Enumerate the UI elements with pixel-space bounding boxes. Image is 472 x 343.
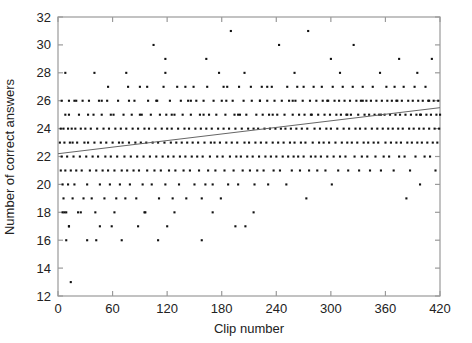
data-point (115, 197, 117, 199)
data-point (182, 114, 184, 116)
data-point (76, 142, 78, 144)
data-point (259, 100, 261, 102)
data-point (290, 128, 292, 130)
data-point (203, 114, 205, 116)
data-point (281, 100, 283, 102)
data-point (252, 156, 254, 158)
data-point (123, 156, 125, 158)
plot-canvas: 060120180240300360420 121416182022242628… (0, 0, 472, 343)
data-point (185, 197, 187, 199)
data-point (201, 197, 203, 199)
data-point (128, 142, 130, 144)
data-point (150, 114, 152, 116)
data-point (164, 183, 166, 185)
data-point (237, 183, 239, 185)
data-point (62, 197, 64, 199)
data-point (340, 114, 342, 116)
data-point (240, 156, 242, 158)
data-point (361, 156, 363, 158)
data-point (261, 86, 263, 88)
data-point (171, 114, 173, 116)
data-point (302, 100, 304, 102)
data-point (211, 128, 213, 130)
data-point (387, 128, 389, 130)
data-point (219, 142, 221, 144)
data-point (121, 169, 123, 171)
data-point (344, 156, 346, 158)
y-axis-title: Number of correct answers (2, 78, 17, 235)
data-point (64, 72, 66, 74)
data-point (172, 197, 174, 199)
data-point (198, 169, 200, 171)
data-point (419, 114, 421, 116)
data-point (386, 100, 388, 102)
data-point (346, 142, 348, 144)
data-point (398, 156, 400, 158)
data-point (417, 100, 419, 102)
data-point (307, 30, 309, 32)
data-point (96, 128, 98, 130)
data-point (236, 142, 238, 144)
data-point (173, 211, 175, 213)
data-point (287, 156, 289, 158)
data-point (414, 156, 416, 158)
y-tick-label: 28 (37, 65, 51, 80)
data-point (82, 100, 84, 102)
data-point (90, 128, 92, 130)
data-point (418, 128, 420, 130)
data-point (364, 128, 366, 130)
data-point (272, 114, 274, 116)
data-point (310, 156, 312, 158)
data-point (368, 114, 370, 116)
data-point (224, 114, 226, 116)
data-point (155, 156, 157, 158)
data-point (250, 86, 252, 88)
data-point (301, 128, 303, 130)
data-point (318, 142, 320, 144)
data-point (201, 239, 203, 241)
data-point (179, 156, 181, 158)
data-point (177, 128, 179, 130)
data-point (409, 169, 411, 171)
data-point (266, 100, 268, 102)
data-point (109, 183, 111, 185)
data-point (303, 156, 305, 158)
data-point (67, 128, 69, 130)
data-point (134, 142, 136, 144)
data-point (297, 156, 299, 158)
data-point (173, 156, 175, 158)
y-tick-label: 30 (37, 37, 51, 52)
data-point (328, 142, 330, 144)
data-point (335, 114, 337, 116)
y-tick-label: 32 (37, 10, 51, 25)
data-point (432, 142, 434, 144)
data-point (333, 156, 335, 158)
data-point (336, 128, 338, 130)
data-point (137, 225, 139, 227)
data-point (428, 128, 430, 130)
data-point (169, 100, 171, 102)
data-point (103, 197, 105, 199)
data-point (239, 114, 241, 116)
data-point (153, 44, 155, 46)
data-point (332, 86, 334, 88)
data-point (220, 197, 222, 199)
data-point (439, 114, 441, 116)
data-point (86, 183, 88, 185)
data-point (118, 142, 120, 144)
data-point (126, 169, 128, 171)
data-point (351, 142, 353, 144)
data-point (253, 183, 255, 185)
data-point (289, 142, 291, 144)
data-point (101, 114, 103, 116)
data-point (253, 128, 255, 130)
data-point (298, 114, 300, 116)
data-point (157, 239, 159, 241)
data-point (244, 225, 246, 227)
data-point (394, 86, 396, 88)
data-point (277, 142, 279, 144)
data-point (321, 86, 323, 88)
data-point (75, 169, 77, 171)
data-point (413, 128, 415, 130)
data-point (223, 86, 225, 88)
